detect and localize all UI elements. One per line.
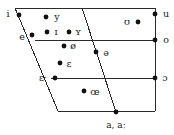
vowel-label: ɛ [67,59,72,69]
vowel-label: u [163,9,169,19]
chart-line-left-slant [15,8,58,111]
vowel-dot [58,61,63,66]
vowel-label: y [54,12,59,22]
chart-frame [15,8,155,112]
vowel-dot [17,13,22,18]
vowel-label: ʊ [124,17,130,27]
vowel-label: ɔ [162,73,167,83]
vowel-label: œ [90,87,99,97]
vowel-chart-diagram [0,0,174,135]
vowel-dot [44,15,49,20]
vowel-label: o [163,35,169,45]
vowel-dot [153,12,158,17]
vowel-dot [53,76,58,81]
vowel-dot [30,33,35,38]
vowel-dot [114,110,119,115]
vowel-dot [153,76,158,81]
vowel-dot [94,50,99,55]
vowel-dot [45,30,50,35]
vowel-dot [67,30,72,35]
vowel-dot [153,38,158,43]
vowel-dot [82,89,87,94]
vowel-dot [136,20,141,25]
vowel-label: ɛː [39,73,47,83]
ipa-vowel-chart: iyʊueɪʏoøəɛɛːɔœa, aː [0,0,174,135]
vowel-label: a, aː [106,121,126,130]
vowel-dot [62,44,67,49]
vowel-label: ʏ [75,27,81,37]
vowel-label: ə [103,48,109,58]
vowel-label: ø [70,41,76,51]
vowel-label: i [6,9,9,19]
vowel-label: ɪ [54,27,57,37]
vowel-label: e [19,32,25,42]
